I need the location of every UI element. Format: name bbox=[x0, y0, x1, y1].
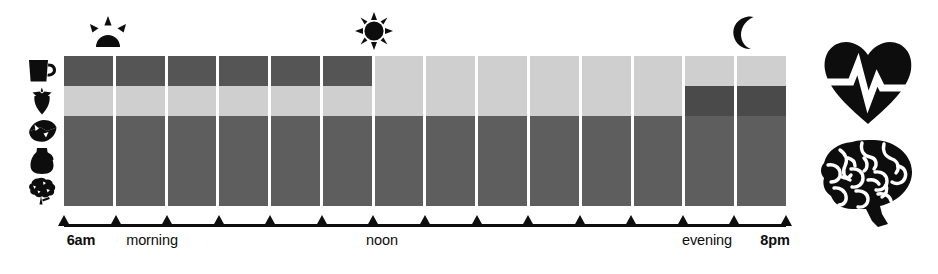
heatmap-cell bbox=[582, 86, 631, 116]
organ-icon-column bbox=[808, 40, 928, 228]
heatmap-cell bbox=[219, 146, 268, 176]
heatmap-cell bbox=[271, 176, 320, 206]
axis-tick-label: noon bbox=[366, 232, 398, 248]
heatmap-cell bbox=[478, 56, 527, 86]
moon-icon bbox=[730, 16, 760, 54]
sun-icon bbox=[355, 12, 393, 54]
heatmap-cell bbox=[478, 116, 527, 146]
heatmap-cell bbox=[530, 56, 579, 86]
heatmap-cell bbox=[737, 56, 786, 86]
heatmap-cell bbox=[116, 86, 165, 116]
axis-tick bbox=[58, 215, 70, 226]
heatmap-row bbox=[64, 56, 786, 86]
coffee-mug-icon bbox=[22, 56, 62, 86]
heatmap-cell bbox=[530, 116, 579, 146]
heart-pulse-icon bbox=[808, 40, 928, 126]
heatmap-cell bbox=[219, 86, 268, 116]
heatmap-cell bbox=[478, 176, 527, 206]
heatmap-cell bbox=[582, 176, 631, 206]
heatmap-cell bbox=[323, 116, 372, 146]
axis-tick bbox=[780, 215, 792, 226]
heatmap-cell bbox=[323, 86, 372, 116]
heatmap-cell bbox=[478, 86, 527, 116]
heatmap-row bbox=[64, 86, 786, 116]
heatmap-cell bbox=[426, 56, 475, 86]
axis-tick bbox=[625, 215, 637, 226]
heatmap-cell bbox=[685, 86, 734, 116]
pitcher-icon bbox=[22, 146, 62, 176]
heatmap-cell bbox=[478, 146, 527, 176]
heatmap-cell bbox=[116, 56, 165, 86]
axis-tick bbox=[213, 215, 225, 226]
axis-tick bbox=[316, 215, 328, 226]
heatmap-cell bbox=[271, 86, 320, 116]
heatmap-cell bbox=[219, 116, 268, 146]
heatmap-cell bbox=[219, 176, 268, 206]
heatmap-cell bbox=[582, 56, 631, 86]
heatmap-cell bbox=[375, 116, 424, 146]
axis-tick bbox=[728, 215, 740, 226]
heatmap-cell bbox=[685, 146, 734, 176]
heatmap-cell bbox=[685, 116, 734, 146]
axis-tick bbox=[161, 215, 173, 226]
axis-tick-label: 8pm bbox=[760, 232, 790, 248]
heatmap-cell bbox=[64, 56, 113, 86]
axis-tick bbox=[471, 215, 483, 226]
axis-tick bbox=[367, 215, 379, 226]
heatmap-grid bbox=[64, 56, 786, 206]
cheese-icon bbox=[22, 116, 62, 146]
heatmap-cell bbox=[116, 116, 165, 146]
heatmap-cell bbox=[685, 56, 734, 86]
heatmap-cell bbox=[323, 56, 372, 86]
heatmap-cell bbox=[582, 146, 631, 176]
heatmap-cell bbox=[64, 146, 113, 176]
heatmap-cell bbox=[530, 146, 579, 176]
heatmap-cell bbox=[375, 176, 424, 206]
time-axis bbox=[64, 214, 786, 228]
heatmap-cell bbox=[116, 146, 165, 176]
heatmap-cell bbox=[271, 116, 320, 146]
heatmap-cell bbox=[737, 146, 786, 176]
axis-label-group: 6ammorningnoonevening8pm bbox=[0, 232, 938, 254]
axis-tick bbox=[110, 215, 122, 226]
heatmap-cell bbox=[168, 116, 217, 146]
heatmap-cell bbox=[375, 86, 424, 116]
heatmap-cell bbox=[530, 86, 579, 116]
heatmap-cell bbox=[64, 176, 113, 206]
heatmap-cell bbox=[116, 176, 165, 206]
heatmap-cell bbox=[323, 146, 372, 176]
row-icon-column bbox=[22, 56, 62, 206]
heatmap-cell bbox=[634, 176, 683, 206]
axis-tick-label: morning bbox=[126, 232, 178, 248]
broccoli-icon bbox=[22, 176, 62, 206]
axis-tick bbox=[419, 215, 431, 226]
heatmap-cell bbox=[634, 86, 683, 116]
heatmap-cell bbox=[685, 176, 734, 206]
heatmap-row bbox=[64, 146, 786, 176]
heatmap-cell bbox=[737, 86, 786, 116]
heatmap-cell bbox=[737, 176, 786, 206]
heatmap-cell bbox=[375, 146, 424, 176]
heatmap-row bbox=[64, 176, 786, 206]
axis-tick bbox=[264, 215, 276, 226]
heatmap-cell bbox=[426, 86, 475, 116]
strawberry-icon bbox=[22, 86, 62, 116]
heatmap-cell bbox=[168, 86, 217, 116]
heatmap-cell bbox=[64, 116, 113, 146]
heatmap-cell bbox=[168, 56, 217, 86]
brain-icon bbox=[808, 136, 928, 228]
heatmap-cell bbox=[168, 176, 217, 206]
heatmap-cell bbox=[582, 116, 631, 146]
axis-tick bbox=[522, 215, 534, 226]
heatmap-cell bbox=[168, 146, 217, 176]
axis-tick bbox=[677, 215, 689, 226]
heatmap-cell bbox=[64, 86, 113, 116]
heatmap-cell bbox=[271, 146, 320, 176]
heatmap-cell bbox=[426, 176, 475, 206]
axis-tick bbox=[574, 215, 586, 226]
axis-tick-label: 6am bbox=[67, 232, 96, 248]
heatmap-cell bbox=[530, 176, 579, 206]
heatmap-cell bbox=[634, 146, 683, 176]
heatmap-cell bbox=[375, 56, 424, 86]
heatmap-cell bbox=[271, 56, 320, 86]
